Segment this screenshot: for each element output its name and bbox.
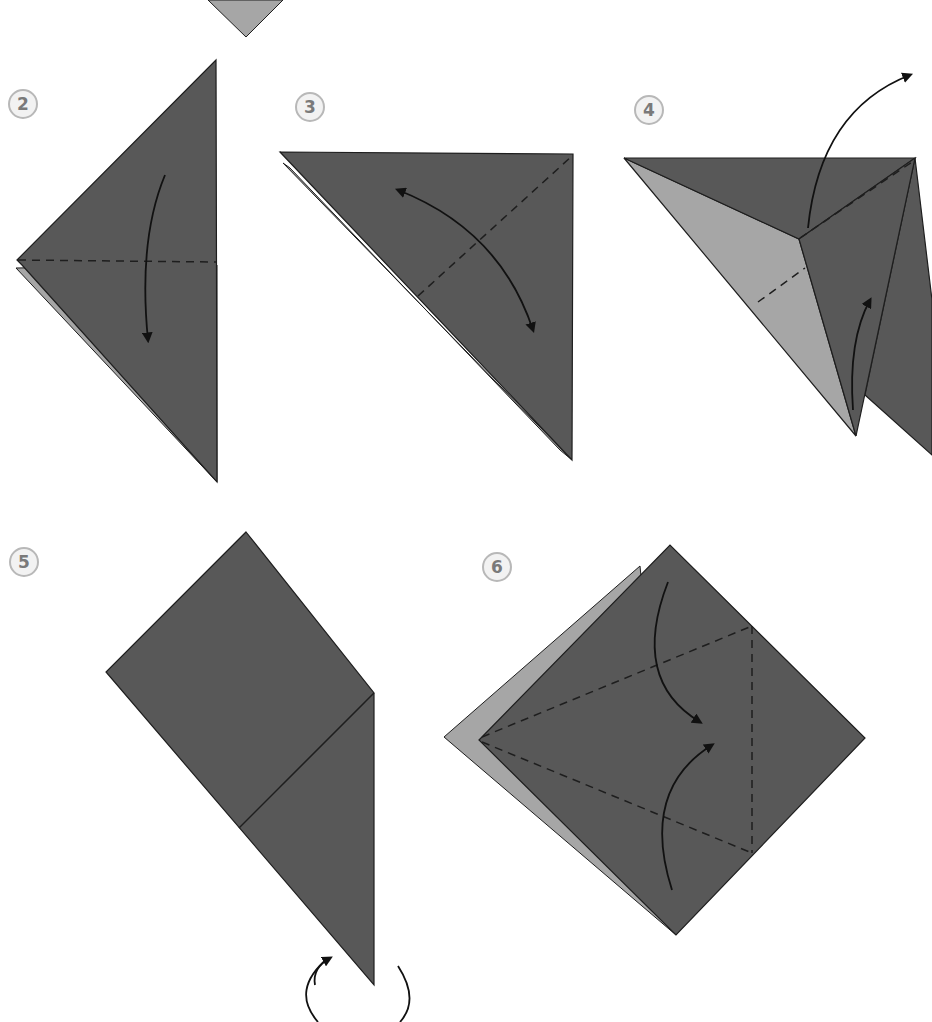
step-badge-3: 3 [295, 92, 325, 122]
step-badge-4: 4 [634, 95, 664, 125]
step-6-figure [444, 545, 865, 935]
previous-step-fragment [208, 0, 283, 37]
step-3-figure [280, 152, 573, 460]
step-4-figure [624, 75, 932, 455]
step-2-figure [16, 60, 217, 482]
turn-over-arrow-icon [306, 958, 409, 1022]
step-5-figure [106, 532, 410, 1022]
step-badge-2: 2 [8, 89, 38, 119]
step-badge-5: 5 [9, 547, 39, 577]
folding-diagram [0, 0, 932, 1022]
step-badge-6: 6 [482, 552, 512, 582]
